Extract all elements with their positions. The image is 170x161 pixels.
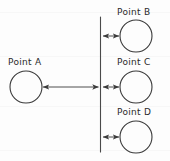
label-point-b: Point B: [117, 8, 150, 17]
circle-point-c: [120, 71, 152, 103]
label-point-a: Point A: [8, 58, 41, 67]
diagram-vector-layer: [0, 0, 170, 161]
circle-point-b: [120, 20, 152, 52]
label-point-d: Point D: [117, 108, 151, 117]
label-point-c: Point C: [117, 58, 151, 67]
circle-point-a: [10, 71, 42, 103]
circle-point-d: [120, 121, 152, 153]
diagram-canvas: Point A Point B Point C Point D: [0, 0, 170, 161]
